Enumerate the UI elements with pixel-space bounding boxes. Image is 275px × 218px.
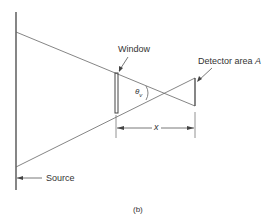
- detector-arrowhead: [197, 76, 202, 82]
- upper-ray: [16, 32, 195, 106]
- optics-diagram: [0, 0, 275, 218]
- dim-arrow-right: [187, 126, 194, 130]
- theta-label: θv: [135, 88, 142, 98]
- detector-label-text: Detector area: [198, 56, 255, 66]
- source-label: Source: [46, 174, 75, 183]
- detector-label: Detector area A: [198, 57, 261, 66]
- detector-label-var: A: [255, 56, 261, 66]
- theta-arc: [146, 86, 148, 100]
- window-arrowhead: [119, 66, 123, 72]
- lower-ray: [16, 78, 195, 167]
- distance-label: x: [152, 123, 161, 132]
- dim-arrow-left: [117, 126, 124, 130]
- figure-caption: (b): [133, 206, 143, 214]
- window: [115, 73, 118, 113]
- source-arrowhead: [17, 176, 23, 180]
- theta-subscript: v: [139, 92, 142, 98]
- window-label: Window: [118, 45, 150, 54]
